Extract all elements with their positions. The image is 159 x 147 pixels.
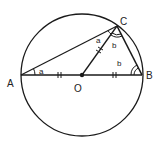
angle-label-c-upper: a: [96, 36, 101, 45]
label-b: B: [146, 70, 153, 81]
label-c: C: [120, 16, 127, 27]
angle-label-c-lower: b: [112, 41, 117, 50]
center-point: [80, 73, 84, 77]
circle-diagram: A B C O a a b b: [0, 0, 159, 147]
segment-ac: [21, 26, 117, 75]
angle-arc-c-upper: [108, 31, 111, 34]
label-o: O: [74, 83, 82, 94]
angle-label-b: b: [117, 59, 122, 68]
angle-arc-a: [34, 69, 36, 75]
label-a: A: [7, 78, 14, 89]
angle-arc-b-2: [134, 68, 138, 75]
angle-label-a: a: [39, 67, 44, 76]
angle-arc-c-lower-1: [112, 33, 121, 35]
